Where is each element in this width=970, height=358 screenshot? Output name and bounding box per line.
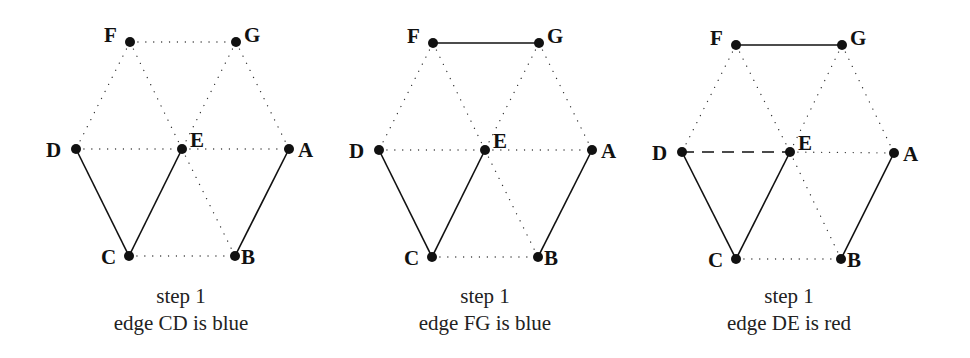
node-b xyxy=(230,251,240,261)
caption-step: step 1 xyxy=(156,284,206,308)
edge-fe-uncolored xyxy=(130,42,182,149)
node-label-d: D xyxy=(349,139,364,163)
edge-eb-uncolored xyxy=(485,150,538,257)
edge-ga-uncolored xyxy=(236,42,289,149)
node-f xyxy=(731,40,741,50)
node-label-f: F xyxy=(710,26,723,50)
panel-3: FGDEACBstep 1edge DE is red xyxy=(652,26,919,335)
node-a xyxy=(284,144,294,154)
node-e xyxy=(177,144,187,154)
node-label-f: F xyxy=(104,23,117,47)
caption-edge: edge CD is blue xyxy=(114,311,249,335)
caption-step: step 1 xyxy=(460,284,510,308)
edge-ga-uncolored xyxy=(539,43,592,150)
node-d xyxy=(677,147,687,157)
edge-ab-blue xyxy=(538,150,592,257)
node-label-e: E xyxy=(493,129,507,153)
node-c xyxy=(731,254,741,264)
node-label-g: G xyxy=(547,24,563,48)
node-label-e: E xyxy=(190,128,204,152)
edge-fe-uncolored xyxy=(736,45,790,152)
node-f xyxy=(125,37,135,47)
node-e xyxy=(785,147,795,157)
edge-fd-uncolored xyxy=(76,42,130,149)
node-label-f: F xyxy=(407,24,420,48)
caption-edge: edge FG is blue xyxy=(419,311,551,335)
node-f xyxy=(428,38,438,48)
node-label-b: B xyxy=(241,245,255,269)
edge-dc-blue xyxy=(76,149,129,256)
node-label-a: A xyxy=(903,142,919,166)
caption-edge: edge DE is red xyxy=(727,311,852,335)
edge-eb-uncolored xyxy=(182,149,235,256)
node-label-b: B xyxy=(847,248,861,272)
node-a xyxy=(889,148,899,158)
edge-ab-blue xyxy=(235,149,289,256)
edge-ec-blue xyxy=(432,150,485,257)
node-label-e: E xyxy=(798,131,812,155)
edge-dc-blue xyxy=(682,152,736,259)
node-c xyxy=(124,251,134,261)
edge-ab-blue xyxy=(841,153,894,259)
node-b xyxy=(836,254,846,264)
edge-ga-uncolored xyxy=(842,45,894,153)
node-d xyxy=(71,144,81,154)
node-label-d: D xyxy=(46,138,61,162)
node-label-b: B xyxy=(544,246,558,270)
node-label-d: D xyxy=(652,141,667,165)
node-a xyxy=(587,145,597,155)
edge-eb-uncolored xyxy=(790,152,841,259)
node-g xyxy=(837,40,847,50)
node-label-c: C xyxy=(101,245,116,269)
caption-step: step 1 xyxy=(764,284,814,308)
node-label-g: G xyxy=(850,26,866,50)
panel-2: FGDEACBstep 1edge FG is blue xyxy=(349,24,617,335)
node-b xyxy=(533,252,543,262)
graph-coloring-diagram: FGDEACBstep 1edge CD is blueFGDEACBstep … xyxy=(0,0,970,358)
edge-fe-uncolored xyxy=(433,43,485,150)
node-label-c: C xyxy=(404,246,419,270)
node-g xyxy=(231,37,241,47)
edge-fd-uncolored xyxy=(682,45,736,152)
node-label-c: C xyxy=(708,248,723,272)
panel-1: FGDEACBstep 1edge CD is blue xyxy=(46,23,314,335)
node-label-g: G xyxy=(244,23,260,47)
node-label-a: A xyxy=(298,138,314,162)
node-e xyxy=(480,145,490,155)
node-d xyxy=(374,145,384,155)
edge-ec-blue xyxy=(736,152,790,259)
edge-ec-blue xyxy=(129,149,182,256)
node-c xyxy=(427,252,437,262)
node-label-a: A xyxy=(601,139,617,163)
edge-fd-uncolored xyxy=(379,43,433,150)
node-g xyxy=(534,38,544,48)
edge-dc-blue xyxy=(379,150,432,257)
